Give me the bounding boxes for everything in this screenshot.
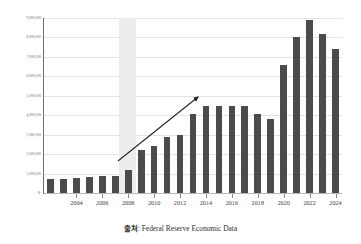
bar [293,37,300,193]
bar [332,49,339,193]
x-axis-tick [336,194,337,198]
bar [306,20,313,193]
recession-band [119,18,136,193]
y-axis-tick-label: 2,000,000 [27,152,41,156]
plot-area [44,18,342,193]
bar [254,114,261,193]
x-axis-tick-label: 2016 [226,199,238,206]
bar [60,179,67,193]
y-axis-tick-label: 9,000,000 [27,16,41,20]
y-axis-tick-label: 5,000,000 [27,94,41,98]
bar [86,177,93,193]
x-axis-tick [310,194,311,198]
bar [112,176,119,193]
bar [229,106,236,193]
bar [164,137,171,193]
x-axis-tick-label: 2004 [70,199,82,206]
x-axis-tick-label: 2020 [278,199,290,206]
y-axis-tick-label: 3,000,000 [27,133,41,137]
y-axis-tick-label: 7,000,000 [27,55,41,59]
y-axis-tick-labels: $-1,000,0002,000,0003,000,0004,000,0005,… [0,0,41,244]
y-axis-tick-label: 6,000,000 [27,74,41,78]
x-axis-tick [284,194,285,198]
bar [190,114,197,193]
x-axis-tick-label: 2010 [148,199,160,206]
y-axis-tick-label: 1,000,000 [27,172,41,176]
bar [73,178,80,193]
bar [203,106,210,194]
grid-line [44,193,342,194]
bar [151,146,158,193]
grid-line [44,18,342,19]
x-axis-tick-label: 2014 [200,199,212,206]
bar [216,106,223,194]
x-axis-tick [206,194,207,198]
x-axis-tick-label: 2022 [303,199,315,206]
bar [99,176,106,193]
x-axis-tick [232,194,233,198]
bar [280,65,287,193]
x-axis-tick [154,194,155,198]
source-label: 출처 [124,224,138,233]
x-axis-tick [128,194,129,198]
x-axis-tick-label: 2006 [96,199,108,206]
bar [138,150,145,193]
bar [319,34,326,193]
x-axis-tick [258,194,259,198]
x-axis-tick [102,194,103,198]
x-axis-tick [180,194,181,198]
y-axis-tick-label: 4,000,000 [27,113,41,117]
source-caption: 출처: Federal Reserve Economic Data [0,222,361,233]
chart-container: $-1,000,0002,000,0003,000,0004,000,0005,… [0,0,361,244]
bar [125,170,132,193]
bar [267,119,274,193]
y-axis-tick-label: 8,000,000 [27,35,41,39]
x-axis-tick-label: 2008 [122,199,134,206]
bar [241,106,248,193]
x-axis-tick-label: 2018 [252,199,264,206]
source-text: Federal Reserve Economic Data [142,224,237,233]
bar [177,135,184,193]
y-axis-tick-label: $- [38,191,41,195]
x-axis-tick-label: 2012 [174,199,186,206]
bar [47,179,54,193]
x-axis-tick [76,194,77,198]
x-axis-tick-label: 2024 [329,199,341,206]
